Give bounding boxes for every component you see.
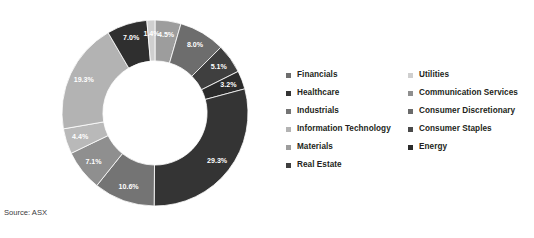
donut-chart: 4.5%8.0%5.1%3.2%29.3%10.6%7.1%4.4%19.3%7…: [62, 20, 248, 206]
legend-item[interactable]: Energy: [408, 138, 526, 156]
legend-swatch-icon: [286, 127, 291, 132]
legend-item-label: Utilities: [419, 71, 449, 79]
legend-swatch-icon: [286, 163, 291, 168]
legend-item-label: Consumer Discretionary: [419, 107, 515, 115]
legend-swatch-icon: [408, 145, 413, 150]
donut-slice-value-label: 4.5%: [158, 31, 175, 39]
legend-swatch-icon: [286, 145, 291, 150]
legend-item[interactable]: Financials: [286, 66, 408, 84]
source-note: Source: ASX: [4, 208, 47, 217]
legend-item-label: Energy: [419, 143, 447, 151]
donut-slice-value-label: 7.1%: [85, 158, 102, 166]
legend-item-label: Financials: [297, 71, 338, 79]
legend-item-label: Healthcare: [297, 89, 339, 97]
donut-chart-svg: 4.5%8.0%5.1%3.2%29.3%10.6%7.1%4.4%19.3%7…: [62, 20, 248, 206]
legend-item-label: Consumer Staples: [419, 125, 492, 133]
donut-slice-layer: [62, 20, 248, 206]
legend-item[interactable]: Industrials: [286, 102, 408, 120]
legend-item[interactable]: Consumer Discretionary: [408, 102, 526, 120]
donut-slice-value-label: 10.6%: [119, 183, 140, 191]
legend-item-label: Information Technology: [297, 125, 391, 133]
donut-slice-value-label: 29.3%: [207, 157, 228, 165]
legend-item[interactable]: Utilities: [408, 66, 526, 84]
legend-item[interactable]: Consumer Staples: [408, 120, 526, 138]
chart-legend: FinancialsHealthcareIndustrialsInformati…: [286, 66, 526, 174]
donut-slice-value-label: 19.3%: [74, 76, 95, 84]
legend-item[interactable]: Materials: [286, 138, 408, 156]
donut-slice-value-label: 7.0%: [123, 34, 140, 42]
donut-slice-value-label: 1.4%: [143, 30, 160, 38]
legend-item[interactable]: Real Estate: [286, 156, 408, 174]
legend-swatch-icon: [286, 109, 291, 114]
donut-slice-value-label: 3.2%: [220, 81, 237, 89]
legend-item-label: Industrials: [297, 107, 339, 115]
donut-slice[interactable]: [154, 89, 248, 206]
legend-swatch-icon: [286, 91, 291, 96]
donut-slice-value-label: 4.4%: [72, 133, 89, 141]
donut-slice-value-label: 8.0%: [187, 41, 204, 49]
legend-item-label: Materials: [297, 143, 333, 151]
legend-swatch-icon: [408, 91, 413, 96]
legend-swatch-icon: [408, 109, 413, 114]
sector-allocation-donut-figure: 4.5%8.0%5.1%3.2%29.3%10.6%7.1%4.4%19.3%7…: [0, 0, 534, 238]
legend-swatch-icon: [408, 127, 413, 132]
donut-slice-value-label: 5.1%: [211, 63, 228, 71]
legend-item-label: Real Estate: [297, 161, 342, 169]
legend-column: UtilitiesCommunication ServicesConsumer …: [408, 66, 526, 174]
legend-swatch-icon: [408, 73, 413, 78]
legend-item-label: Communication Services: [419, 89, 518, 97]
legend-column: FinancialsHealthcareIndustrialsInformati…: [286, 66, 408, 174]
legend-item[interactable]: Information Technology: [286, 120, 408, 138]
legend-item[interactable]: Healthcare: [286, 84, 408, 102]
legend-swatch-icon: [286, 73, 291, 78]
legend-item[interactable]: Communication Services: [408, 84, 526, 102]
